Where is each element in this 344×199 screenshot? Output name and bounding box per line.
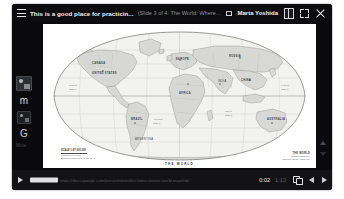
svg-text:EUROPE: EUROPE — [176, 57, 189, 61]
svg-text:INDIAN: INDIAN — [225, 110, 232, 112]
map-scale: SCALE 1:87,000,000 Robinson Projection S… — [61, 149, 95, 160]
close-icon[interactable] — [315, 8, 326, 19]
svg-text:UNITED STATES: UNITED STATES — [92, 71, 117, 75]
svg-text:OCEAN: OCEAN — [153, 122, 161, 124]
top-bar-actions: Marta Yoshida — [226, 8, 326, 19]
svg-text:OCEAN: OCEAN — [225, 114, 233, 116]
world-map-svg: CANADA UNITED STATES BRAZIL AFRICA RUSSI… — [43, 24, 316, 168]
top-bar: This is a good place for practicin... (S… — [12, 4, 332, 22]
book-icon[interactable] — [284, 8, 294, 19]
screen-root: This is a good place for practicin... (S… — [0, 0, 344, 199]
svg-text:RUSSIA: RUSSIA — [229, 54, 241, 58]
nav-right-icon[interactable] — [322, 177, 327, 183]
map-legend: THE WORLD National boundary National cap… — [282, 152, 310, 161]
slide-meta-label: (Slide 3 of 4: The World: Where is you..… — [138, 10, 222, 16]
svg-text:PACIFIC: PACIFIC — [69, 84, 77, 86]
svg-text:PACIFIC: PACIFIC — [281, 84, 289, 86]
svg-text:AUSTRALIA: AUSTRALIA — [267, 117, 285, 121]
nav-left-icon[interactable] — [309, 177, 314, 183]
map-scale-title: SCALE 1:87,000,000 — [61, 149, 95, 152]
page-title: This is a good place for practicin... — [30, 10, 134, 17]
svg-text:CANADA: CANADA — [92, 61, 105, 65]
svg-text:OCEAN: OCEAN — [281, 88, 289, 90]
svg-text:BRAZIL: BRAZIL — [131, 117, 143, 121]
copy-icon[interactable] — [293, 176, 302, 185]
slide-stage[interactable]: CANADA UNITED STATES BRAZIL AFRICA RUSSI… — [43, 24, 316, 168]
play-icon[interactable] — [18, 177, 23, 183]
seek-progress — [30, 178, 58, 183]
svg-text:ATLANTIC: ATLANTIC — [153, 118, 163, 120]
rail-item-app-thumbnail[interactable] — [16, 76, 32, 91]
stage-scroll-controls — [316, 22, 330, 170]
svg-text:OCEAN: OCEAN — [69, 88, 77, 90]
presenter-name: Marta Yoshida — [238, 10, 278, 16]
rail-item-app-thumbnail-2[interactable] — [17, 111, 31, 124]
current-time-label: 0:02 — [259, 177, 270, 183]
world-map: CANADA UNITED STATES BRAZIL AFRICA RUSSI… — [43, 24, 316, 168]
svg-text:AFRICA: AFRICA — [179, 91, 191, 95]
mute-label[interactable]: Mute — [16, 143, 26, 148]
map-scale-line-1: Standard parallels 38° N and 38° S — [61, 157, 95, 160]
svg-text:INDIA: INDIA — [218, 79, 227, 83]
presentation-window: This is a good place for practicin... (S… — [12, 4, 332, 190]
total-time-label: 1:13 — [275, 177, 286, 183]
scroll-up-icon[interactable] — [320, 141, 326, 145]
player-bar: https://docs.google.com/presentation/d/e… — [12, 170, 332, 190]
body-area: m G Mute — [12, 22, 332, 170]
map-caption: THE WORLD — [165, 162, 194, 166]
svg-text:ARGENTINA: ARGENTINA — [135, 137, 153, 141]
rail-item-google-app[interactable]: G — [20, 129, 28, 139]
seek-url-label: https://docs.google.com/presentation/d/e… — [60, 178, 189, 183]
presenting-badge-icon — [226, 11, 232, 16]
rail-item-mail-app[interactable]: m — [20, 96, 28, 106]
hamburger-icon[interactable] — [17, 9, 26, 17]
map-legend-line-1: National capital • Major city — [282, 158, 310, 161]
expand-icon[interactable] — [300, 9, 309, 18]
seek-bar[interactable]: https://docs.google.com/presentation/d/e… — [30, 177, 255, 184]
scroll-down-icon[interactable] — [320, 152, 326, 156]
